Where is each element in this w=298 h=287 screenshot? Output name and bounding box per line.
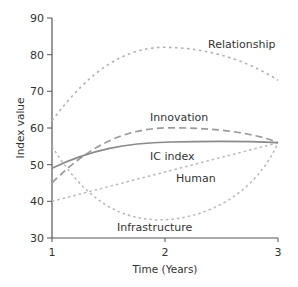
y-tick-70: 70 bbox=[30, 85, 44, 98]
y-axis-title: Index value bbox=[14, 98, 26, 159]
line-chart: 90 80 70 60 50 40 30 Index value 1 2 3 T… bbox=[0, 0, 298, 287]
x-axis-title: Time (Years) bbox=[132, 263, 198, 275]
label-ic-index: IC index bbox=[150, 150, 195, 163]
label-relationship: Relationship bbox=[208, 38, 276, 51]
y-tick-90: 90 bbox=[30, 12, 44, 25]
y-tick-50: 50 bbox=[30, 159, 44, 172]
y-tick-40: 40 bbox=[30, 195, 44, 208]
y-tick-80: 80 bbox=[30, 49, 44, 62]
label-human: Human bbox=[176, 172, 216, 185]
y-axis: 90 80 70 60 50 40 30 Index value bbox=[14, 12, 52, 245]
series-relationship bbox=[52, 47, 278, 120]
x-axis: 1 2 3 Time (Years) bbox=[49, 238, 282, 275]
chart-svg: 90 80 70 60 50 40 30 Index value 1 2 3 T… bbox=[0, 0, 298, 287]
label-infrastructure: Infrastructure bbox=[117, 221, 193, 234]
x-tick-2: 2 bbox=[162, 246, 169, 259]
label-innovation: Innovation bbox=[150, 111, 208, 124]
x-tick-3: 3 bbox=[275, 246, 282, 259]
x-tick-1: 1 bbox=[49, 246, 56, 259]
y-tick-30: 30 bbox=[30, 232, 44, 245]
y-tick-60: 60 bbox=[30, 122, 44, 135]
